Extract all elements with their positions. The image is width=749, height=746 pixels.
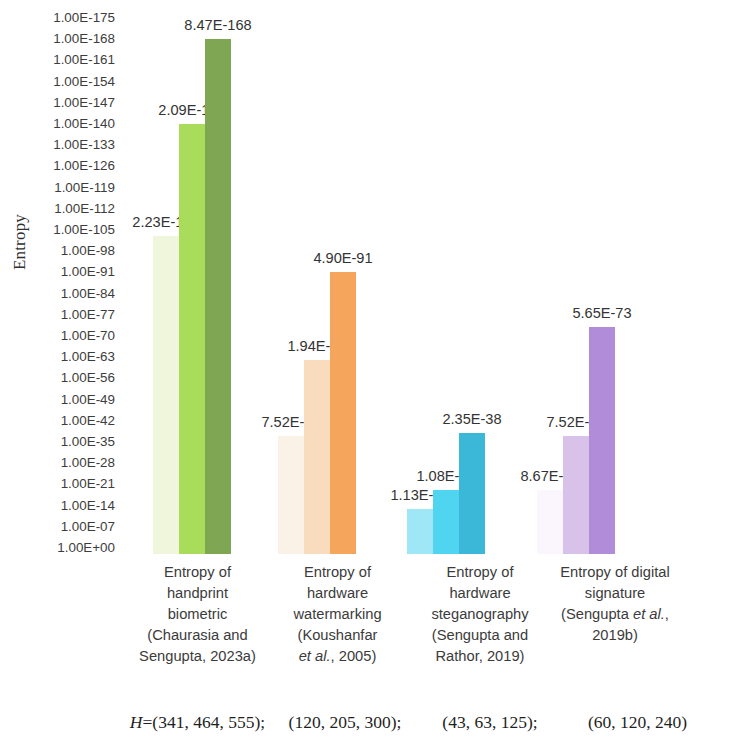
bar-hardware-watermarking-2[interactable] [304,360,330,554]
bar-digital-signature-1[interactable] [537,490,563,554]
h-value-text: (43, 63, 125); [442,712,537,732]
category-label-line: hardware [400,583,560,604]
category-label-line: (Sengupta and [400,625,560,646]
bar-hardware-watermarking-1[interactable] [278,436,304,554]
bar-group-hardware-steganography: 1.13E-131.08E-192.35E-38 [407,0,485,556]
y-axis-tick-label: 1.00E-175 [30,11,115,24]
category-label-hardware-steganography: Entropy ofhardwaresteganography(Sengupta… [400,562,560,666]
y-axis-tick-label: 1.00E-112 [30,202,115,215]
y-axis-tick-label: 1.00E-77 [30,308,115,321]
plot-area: 2.23E-1032.09E-1408.47E-1687.52E-371.94E… [120,0,749,556]
y-axis-tick-label: 1.00E-42 [30,414,115,427]
bar-group-hardware-watermarking: 7.52E-371.94E-624.90E-91 [278,0,356,556]
h-symbol: H [130,712,143,732]
category-label-line: biometric [115,604,280,625]
category-label-line: (Koushanfar [265,625,410,646]
y-axis-tick-label: 1.00E-133 [30,138,115,151]
category-label-line: (Chaurasia and [115,625,280,646]
et-al-italic: et al. [633,606,665,622]
entropy-bar-chart: Entropy 1.00E-1751.00E-1681.00E-1611.00E… [0,0,749,746]
y-axis-tick-label: 1.00E-119 [30,181,115,194]
category-label-line: Entropy of digital [540,562,690,583]
bar-group-handprint-biometric: 2.23E-1032.09E-1408.47E-168 [153,0,231,556]
category-label-line: (Sengupta et al., [540,604,690,625]
bar-hardware-steganography-1[interactable] [407,509,433,554]
y-axis-tick-label: 1.00E-168 [30,32,115,45]
category-label-line: hardware [265,583,410,604]
y-axis-tick-label: 1.00E-126 [30,159,115,172]
y-axis-tick-label: 1.00E-161 [30,53,115,66]
h-value-text: (60, 120, 240) [588,712,687,732]
y-axis-tick-label: 1.00E-21 [30,477,115,490]
h-value-text: (120, 205, 300); [289,712,402,732]
category-label-line: signature [540,583,690,604]
bar-handprint-biometric-3[interactable] [205,39,231,554]
y-axis-tick-label: 1.00E-07 [30,520,115,533]
y-axis-tick-label: 1.00E-154 [30,75,115,88]
category-label-handprint-biometric: Entropy ofhandprintbiometric(Chaurasia a… [115,562,280,666]
y-axis-title: Entropy [10,192,30,292]
bar-handprint-biometric-1[interactable] [153,236,179,554]
bar-hardware-steganography-3[interactable] [459,433,485,554]
y-axis-tick-label: 1.00E-35 [30,435,115,448]
y-axis-tick-label: 1.00E-147 [30,96,115,109]
category-label-digital-signature: Entropy of digitalsignature(Sengupta et … [540,562,690,646]
category-label-hardware-watermarking: Entropy ofhardwarewatermarking(Koushanfa… [265,562,410,666]
h-value-handprint-biometric: H=(341, 464, 555); [110,712,285,733]
y-axis-tick-label: 1.00E-14 [30,499,115,512]
bar-group-digital-signature: 8.67E-197.52E-375.65E-73 [537,0,615,556]
bar-value-label: 4.90E-91 [291,251,395,266]
bar-hardware-steganography-2[interactable] [433,490,459,554]
h-value-text: =(341, 464, 555); [143,712,266,732]
y-axis-tick-label: 1.00E-140 [30,117,115,130]
category-label-line: Entropy of [265,562,410,583]
h-values-row: H=(341, 464, 555);(120, 205, 300);(43, 6… [0,702,749,746]
bar-digital-signature-2[interactable] [563,436,589,554]
category-label-line: handprint [115,583,280,604]
category-label-line: Entropy of [400,562,560,583]
y-axis-tick-label: 1.00E-84 [30,287,115,300]
bar-value-label: 5.65E-73 [550,306,654,321]
category-label-line: 2019b) [540,625,690,646]
y-axis-tick-label: 1.00E-56 [30,371,115,384]
category-label-line: watermarking [265,604,410,625]
category-label-line: et al., 2005) [265,646,410,667]
bar-value-label: 8.47E-168 [166,18,270,33]
bar-handprint-biometric-2[interactable] [179,124,205,554]
bar-hardware-watermarking-3[interactable] [330,272,356,554]
category-label-line: Rathor, 2019) [400,646,560,667]
y-axis-tick-label: 1.00E-70 [30,329,115,342]
category-label-line: Sengupta, 2023a) [115,646,280,667]
category-label-line: Entropy of [115,562,280,583]
h-value-digital-signature: (60, 120, 240) [555,712,720,733]
category-axis-labels: Entropy ofhandprintbiometric(Chaurasia a… [120,562,749,702]
y-axis-tick-label: 1.00E-105 [30,223,115,236]
y-axis-tick-label: 1.00E-63 [30,350,115,363]
y-axis-tick-label: 1.00E-91 [30,265,115,278]
y-axis-tick-labels: 1.00E-1751.00E-1681.00E-1611.00E-1541.00… [30,0,115,560]
bar-digital-signature-3[interactable] [589,327,615,554]
category-label-line: steganography [400,604,560,625]
bar-value-label: 2.35E-38 [420,412,524,427]
y-axis-tick-label: 1.00E-49 [30,393,115,406]
h-value-hardware-steganography: (43, 63, 125); [410,712,570,733]
et-al-italic: et al. [299,648,331,664]
y-axis-tick-label: 1.00E-98 [30,244,115,257]
y-axis-tick-label: 1.00E+00 [30,541,115,554]
h-value-hardware-watermarking: (120, 205, 300); [265,712,425,733]
y-axis-tick-label: 1.00E-28 [30,456,115,469]
